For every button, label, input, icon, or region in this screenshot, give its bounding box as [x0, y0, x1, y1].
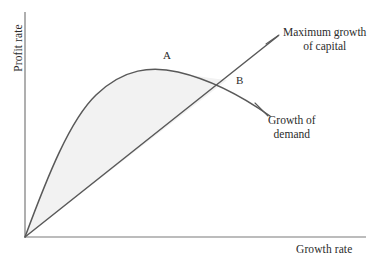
- x-axis-title: Growth rate: [296, 243, 352, 255]
- point-a-label: A: [163, 50, 171, 61]
- max-growth-of-capital-label: Maximum growth of capital: [283, 26, 366, 53]
- max-growth-of-capital-line: [25, 36, 278, 237]
- growth-of-demand-label-line1: Growth of: [268, 114, 316, 128]
- chart-figure: Profit rate Growth rate A B Maximum grow…: [0, 0, 376, 268]
- y-axis-title: Profit rate: [12, 6, 24, 90]
- capital-label-leader-line: [266, 35, 279, 44]
- max-growth-of-capital-label-line1: Maximum growth: [283, 26, 366, 40]
- growth-of-demand-label-line2: demand: [268, 128, 316, 142]
- demand-label-leader-line: [255, 103, 268, 116]
- growth-of-demand-label: Growth of demand: [268, 114, 316, 141]
- max-growth-of-capital-label-line2: of capital: [283, 40, 366, 54]
- point-b-label: B: [236, 75, 243, 86]
- shaded-region: [25, 69, 227, 237]
